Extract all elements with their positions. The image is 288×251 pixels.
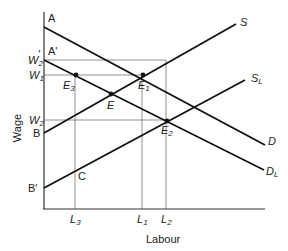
label-l3: L3 — [70, 213, 81, 227]
label-e: E — [107, 99, 115, 111]
label-l1: L1 — [137, 213, 148, 227]
label-e1: E1 — [138, 79, 150, 93]
label-e3: E3 — [63, 79, 75, 93]
label-w2-prime: W2' — [28, 48, 43, 68]
point-e1-dot — [141, 73, 146, 78]
point-e-dot — [109, 92, 114, 97]
demand-curve-d — [44, 27, 265, 145]
label-a: A — [48, 12, 56, 24]
label-l2: L2 — [161, 213, 172, 227]
x-axis-title: Labour — [146, 233, 181, 245]
label-e2: E2 — [161, 124, 173, 138]
label-b: B — [33, 127, 40, 139]
label-c: C — [78, 170, 86, 182]
label-sl: SL — [251, 72, 263, 86]
label-dl: DL — [266, 165, 278, 179]
label-w1: W1 — [29, 69, 44, 83]
supply-curve-sl — [44, 80, 245, 188]
label-d: D — [268, 135, 276, 147]
point-e2-dot — [165, 119, 170, 124]
y-axis-title: Wage — [11, 114, 23, 142]
label-a-prime: A' — [48, 45, 57, 57]
supply-demand-diagram: A A' B B' W2' W1 W2 E3 E E1 E2 C S SL D … — [0, 0, 288, 251]
label-b-prime: B' — [28, 182, 37, 194]
label-w2: W2 — [29, 114, 44, 128]
point-e3-dot — [74, 73, 79, 78]
label-s: S — [240, 16, 248, 28]
